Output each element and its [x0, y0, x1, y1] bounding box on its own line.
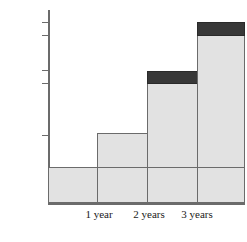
y-tick-mark-1180 [42, 83, 49, 84]
y-tick-mark-1188 [42, 70, 49, 71]
x-tick-label-2-years: 2 years [124, 209, 174, 220]
bar-segment-principal-1 [97, 167, 148, 203]
compound-interest-bar-chart: $1.295 $1.270 $1.188 $1.180 $1.09 $1 [0, 0, 247, 242]
bar-segment-growth-2 [147, 83, 198, 168]
bar-segment-principal-0 [48, 167, 98, 203]
y-tick-mark-1295 [42, 22, 49, 23]
y-tick-mark-1270 [42, 35, 49, 36]
x-axis-line [48, 203, 245, 205]
x-tick-label-1-year: 1 year [74, 209, 124, 220]
bar-segment-growth-1 [97, 133, 148, 168]
x-tick-label-3-years: 3 years [172, 209, 222, 220]
bar-segment-principal-3 [197, 167, 245, 203]
bar-segment-principal-2 [147, 167, 198, 203]
bar-segment-compounding-extra-3 [197, 22, 245, 36]
plot-area [48, 10, 245, 205]
bar-segment-growth-3 [197, 35, 245, 168]
bar-segment-compounding-extra-2 [147, 71, 198, 84]
y-tick-mark-109 [42, 135, 49, 136]
